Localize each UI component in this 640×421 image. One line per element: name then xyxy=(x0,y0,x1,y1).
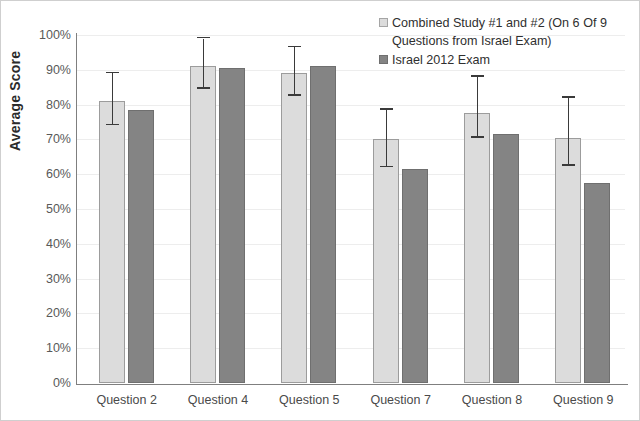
legend-item-label: Combined Study #1 and #2 (On 6 Of 9 Ques… xyxy=(392,15,631,51)
bar-series-combined-study[interactable] xyxy=(555,138,581,383)
error-bar-cap xyxy=(380,166,393,168)
y-axis-tick-label: 60% xyxy=(23,167,71,181)
chart-legend: Combined Study #1 and #2 (On 6 Of 9 Ques… xyxy=(379,15,631,71)
bar-group xyxy=(99,35,155,383)
error-bar xyxy=(477,77,478,138)
bar-series-combined-study[interactable] xyxy=(373,139,399,383)
y-axis-tick-label: 90% xyxy=(23,63,71,77)
error-bar xyxy=(568,98,569,166)
error-bar-cap xyxy=(106,72,119,74)
x-axis-line xyxy=(76,384,628,385)
bar-series-combined-study[interactable] xyxy=(281,73,307,383)
gridline xyxy=(77,139,625,140)
legend-swatch-icon xyxy=(379,55,388,64)
bar-series-combined-study[interactable] xyxy=(464,113,490,383)
bar-group xyxy=(190,35,246,383)
gridline xyxy=(77,313,625,314)
error-bar xyxy=(294,47,295,96)
error-bar-cap xyxy=(471,75,484,77)
error-bar-cap xyxy=(471,136,484,138)
error-bar-cap xyxy=(562,96,575,98)
bar-series-israel-exam[interactable] xyxy=(219,68,245,383)
legend-item-label: Israel 2012 Exam xyxy=(392,52,631,70)
bar-series-israel-exam[interactable] xyxy=(584,183,610,383)
gridline xyxy=(77,279,625,280)
bar-group xyxy=(373,35,429,383)
error-bar-cap xyxy=(562,164,575,166)
y-axis-tick-label: 70% xyxy=(23,132,71,146)
error-bar-cap xyxy=(288,46,301,48)
bar-series-israel-exam[interactable] xyxy=(310,66,336,383)
bar-group xyxy=(555,35,611,383)
gridline xyxy=(77,209,625,210)
y-axis-tick-label: 80% xyxy=(23,98,71,112)
x-axis-tick-label: Question 9 xyxy=(523,393,640,407)
y-axis-tick-label: 30% xyxy=(23,272,71,286)
bar-series-israel-exam[interactable] xyxy=(402,169,428,383)
error-bar xyxy=(386,110,387,167)
y-axis-tick-label: 20% xyxy=(23,306,71,320)
y-axis-tick-label: 10% xyxy=(23,341,71,355)
bar-series-combined-study[interactable] xyxy=(99,101,125,383)
legend-item[interactable]: Combined Study #1 and #2 (On 6 Of 9 Ques… xyxy=(379,15,631,51)
y-axis-tick-label: 50% xyxy=(23,202,71,216)
bar-series-combined-study[interactable] xyxy=(190,66,216,383)
error-bar xyxy=(203,39,204,89)
gridline xyxy=(77,174,625,175)
error-bar-cap xyxy=(288,94,301,96)
y-axis-tick-label: 0% xyxy=(23,376,71,390)
gridline xyxy=(77,348,625,349)
error-bar-cap xyxy=(197,87,210,89)
error-bar-cap xyxy=(197,37,210,39)
y-axis-tick-label: 100% xyxy=(23,28,71,42)
legend-swatch-icon xyxy=(379,18,388,27)
error-bar xyxy=(112,73,113,125)
gridline xyxy=(77,105,625,106)
chart-container: Average Score 100%90%80%70%60%50%40%30%2… xyxy=(0,0,640,421)
bar-series-israel-exam[interactable] xyxy=(493,134,519,383)
plot-area xyxy=(77,35,625,383)
error-bar-cap xyxy=(380,108,393,110)
error-bar-cap xyxy=(106,124,119,126)
bar-group xyxy=(464,35,520,383)
bar-group xyxy=(281,35,337,383)
legend-item[interactable]: Israel 2012 Exam xyxy=(379,52,631,70)
y-axis-tick-label: 40% xyxy=(23,237,71,251)
y-axis-title: Average Score xyxy=(7,31,23,151)
gridline xyxy=(77,244,625,245)
bar-series-israel-exam[interactable] xyxy=(128,110,154,383)
